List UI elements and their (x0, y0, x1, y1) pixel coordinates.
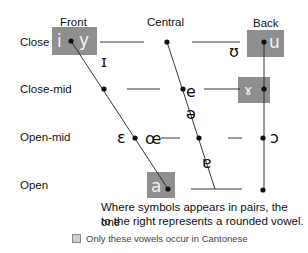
legend-label: Only these vowels occur in Cantonese (86, 233, 248, 244)
column-header-central: Central (147, 16, 184, 28)
vowel-oe-ligature: œ (145, 131, 161, 147)
vowel-schwa: ə (186, 106, 196, 122)
vowel-epsilon: ɛ (117, 130, 126, 146)
row-label-open-mid: Open-mid (20, 131, 71, 143)
vowel-open-o: ɔ (270, 130, 279, 146)
vowel-ram-horns: ɤ (244, 81, 252, 99)
vowel-u: u (269, 33, 280, 51)
column-header-back: Back (253, 17, 279, 29)
vowel-y: y (79, 31, 89, 49)
row-label-close: Close (20, 36, 49, 48)
row-label-close-mid: Close-mid (20, 83, 72, 95)
column-header-front: Front (60, 16, 87, 28)
legend-swatch-icon (72, 234, 81, 243)
row-label-open: Open (20, 179, 48, 191)
vowel-small-capital-i: ɪ (101, 54, 107, 70)
rounded-vowel-note-line2: to the right represents a rounded vowel. (101, 214, 304, 229)
vowel-upsilon: ʊ (229, 44, 239, 60)
vowel-a: a (151, 177, 161, 195)
vowel-turned-a: ɐ (202, 155, 212, 171)
vowel-close-mid-central: e (186, 84, 196, 100)
vowel-i: i (57, 32, 62, 50)
legend: Only these vowels occur in Cantonese (72, 233, 248, 244)
